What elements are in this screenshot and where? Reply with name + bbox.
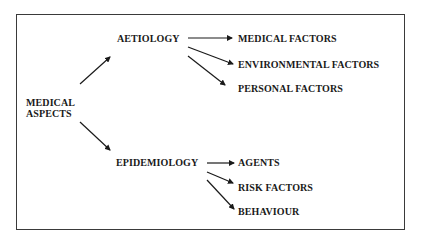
node-medical-factors: MEDICAL FACTORS — [238, 33, 337, 44]
node-environmental-factors: ENVIRONMENTAL FACTORS — [238, 59, 379, 70]
arrow-epidemiology-to-behaviour — [207, 180, 234, 209]
root-label-line2: ASPECTS — [26, 108, 72, 119]
node-risk-factors: RISK FACTORS — [238, 182, 313, 193]
arrows-layer — [0, 0, 422, 249]
arrow-epidemiology-to-risk-factors — [207, 172, 233, 183]
arrow-root-to-aetiology — [80, 57, 110, 84]
root-label-line1: MEDICAL — [26, 97, 75, 108]
node-epidemiology: EPIDEMIOLOGY — [116, 157, 198, 168]
arrow-root-to-epidemiology — [80, 122, 110, 150]
node-agents: AGENTS — [238, 157, 280, 168]
node-aetiology: AETIOLOGY — [117, 33, 180, 44]
arrow-aetiology-to-personal-factors — [188, 56, 225, 85]
node-behaviour: BEHAVIOUR — [238, 206, 299, 217]
node-personal-factors: PERSONAL FACTORS — [238, 83, 343, 94]
